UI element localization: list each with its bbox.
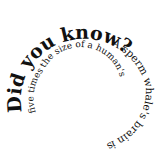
spiral-text-graphic: Did you know? A sperm whale's brain is f…	[0, 0, 160, 155]
